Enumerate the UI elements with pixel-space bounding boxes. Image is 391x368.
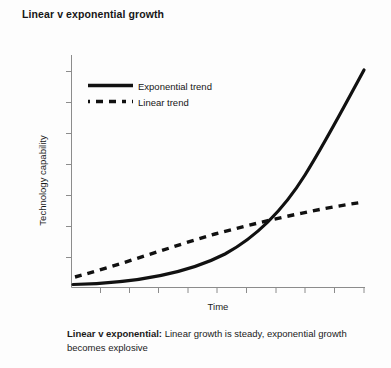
x-axis-ticks [101, 288, 365, 294]
y-axis-label: Technology capability [37, 101, 48, 261]
series-line-linear-trend [75, 202, 364, 277]
chart-caption: Linear v exponential: Linear growth is s… [67, 327, 367, 354]
x-axis-label: Time [71, 301, 365, 312]
series-line-exponential-trend [73, 70, 364, 285]
legend-label-linear-trend: Linear trend [138, 97, 189, 108]
plot-area [0, 0, 391, 368]
caption-lead: Linear v exponential: [67, 328, 162, 339]
y-axis-ticks [66, 72, 72, 258]
legend-label-exponential-trend: Exponential trend [138, 81, 212, 92]
chart-figure: Linear v exponential growth [0, 0, 391, 368]
